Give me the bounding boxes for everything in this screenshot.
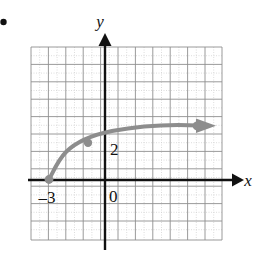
x-axis-label: x <box>243 171 252 190</box>
curve-point-dot-right <box>193 121 202 130</box>
graph-figure: y x 0 2 –3 <box>0 0 261 253</box>
coordinate-plane-svg: y x 0 2 –3 <box>0 0 261 253</box>
bullet-marker <box>0 19 6 25</box>
y-axis-label: y <box>94 12 104 31</box>
curve-point-dot-mid <box>84 139 92 147</box>
curve-endpoint-dot <box>45 175 54 184</box>
y-tick-label-2: 2 <box>110 140 119 159</box>
origin-label: 0 <box>109 187 118 206</box>
x-tick-label-minus-3: –3 <box>38 188 56 207</box>
